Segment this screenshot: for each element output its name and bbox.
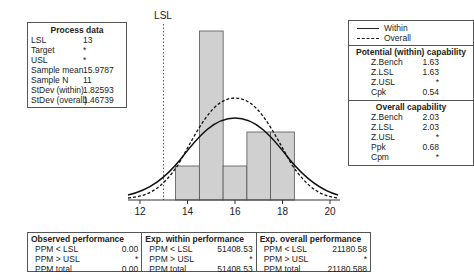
ppm-row: PPM > USL* xyxy=(260,254,367,264)
dashed-line-icon xyxy=(357,38,379,39)
histogram-bars xyxy=(176,31,295,200)
x-tick-label: 18 xyxy=(277,206,289,217)
performance-table: Observed performance PPM < LSL0.00 PPM >… xyxy=(27,232,371,272)
bar xyxy=(176,166,200,200)
potential-capability-section: Potential (within) capability Z.Bench1.6… xyxy=(349,46,473,100)
overall-capability-section: Overall capability Z.Bench2.03 Z.LSL2.03… xyxy=(349,100,473,165)
lsl-label: LSL xyxy=(154,10,172,21)
bar xyxy=(223,166,247,200)
ppm-row: PPM > USL* xyxy=(145,254,252,264)
x-tick-label: 14 xyxy=(182,206,194,217)
chart-legend: Within Overall xyxy=(349,21,473,46)
ppm-row: PPM total51408.53 xyxy=(145,264,252,274)
overall-capability-title: Overall capability xyxy=(349,102,473,112)
capability-row: Ppk0.68 xyxy=(349,142,473,152)
legend-within: Within xyxy=(357,23,465,33)
x-tick-label: 12 xyxy=(134,206,146,217)
capability-row: Z.Bench1.63 xyxy=(349,57,473,67)
solid-line-icon xyxy=(357,28,379,29)
x-tick-label: 20 xyxy=(324,206,336,217)
potential-capability-title: Potential (within) capability xyxy=(349,47,473,57)
ppm-row: PPM < LSL0.00 xyxy=(31,244,138,254)
capability-row: Cpk0.54 xyxy=(349,87,473,97)
bar xyxy=(271,132,295,200)
capability-row: Cpm* xyxy=(349,152,473,162)
ppm-row: PPM < LSL21180.58 xyxy=(260,244,367,254)
observed-performance: Observed performance PPM < LSL0.00 PPM >… xyxy=(28,233,141,271)
capability-row: Z.LSL2.03 xyxy=(349,122,473,132)
bar xyxy=(199,31,223,200)
x-tick-label: 16 xyxy=(229,206,241,217)
ppm-row: PPM > USL* xyxy=(31,254,138,264)
capability-row: Z.Bench2.03 xyxy=(349,112,473,122)
bar xyxy=(247,132,271,200)
ppm-row: PPM total0.00 xyxy=(31,264,138,274)
capability-legend-box: Within Overall Potential (within) capabi… xyxy=(348,20,474,166)
capability-row: Z.USL* xyxy=(349,77,473,87)
ppm-row: PPM < LSL51408.53 xyxy=(145,244,252,254)
capability-row: Z.LSL1.63 xyxy=(349,67,473,77)
capability-row: Z.USL* xyxy=(349,132,473,142)
ppm-row: PPM total21180.588 xyxy=(260,264,367,274)
legend-overall: Overall xyxy=(357,33,465,43)
exp-within-performance: Exp. within performance PPM < LSL51408.5… xyxy=(141,233,255,271)
exp-overall-performance: Exp. overall performance PPM < LSL21180.… xyxy=(256,233,370,271)
